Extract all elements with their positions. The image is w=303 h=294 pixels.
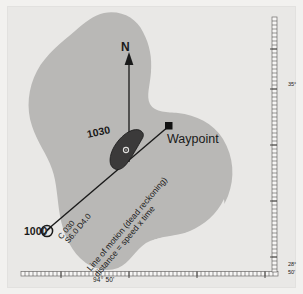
departure-fix-time-label: 1000 [24,226,47,237]
waypoint-label: Waypoint [167,133,219,146]
latitude-tick-label-low: 28° [288,262,296,268]
map-graphics [0,0,303,294]
latitude-ruler [270,17,277,272]
navigation-chart: N Waypoint 1030 1000 C 030 S6.0 D4.0 Lin… [0,0,303,294]
waypoint-square-icon [165,122,173,130]
north-label: N [121,41,130,53]
latitude-tick-label-bottom: 50' [288,270,295,276]
longitude-tick-label: 94° 50' [93,277,115,284]
latitude-tick-label-mid: 35° [288,82,296,88]
bay-inlet [151,59,203,89]
